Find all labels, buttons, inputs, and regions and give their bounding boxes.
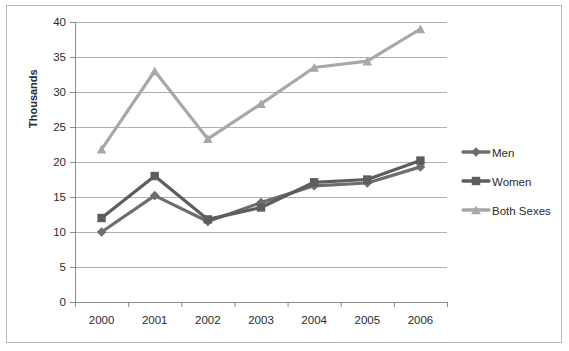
data-point-marker xyxy=(257,203,265,211)
y-axis-ticks-group: 0510152025303540 xyxy=(53,16,75,308)
data-series-layer xyxy=(97,24,425,236)
x-tick-label: 2006 xyxy=(408,314,434,326)
chart-legend: MenWomenBoth Sexes xyxy=(463,147,551,217)
y-axis-title: Thousands xyxy=(27,69,39,128)
data-point-marker xyxy=(310,178,318,186)
data-point-marker xyxy=(416,156,424,164)
chart-container: Thousands 0510152025303540 2000200120022… xyxy=(0,0,569,351)
y-tick-label: 5 xyxy=(60,261,66,273)
x-axis-ticks-group: 2000200120022003200420052006 xyxy=(76,302,448,326)
data-point-marker xyxy=(416,24,426,33)
y-tick-label: 15 xyxy=(53,191,66,203)
y-tick-label: 35 xyxy=(53,51,66,63)
legend-swatch-marker xyxy=(472,177,480,185)
y-tick-label: 0 xyxy=(60,296,66,308)
data-point-marker xyxy=(97,214,105,222)
y-tick-label: 20 xyxy=(53,156,66,168)
legend-swatch-marker xyxy=(471,147,481,157)
legend-label: Men xyxy=(492,147,514,159)
x-tick-label: 2000 xyxy=(89,314,115,326)
x-tick-label: 2002 xyxy=(195,314,221,326)
x-tick-label: 2005 xyxy=(354,314,380,326)
series-both-sexes xyxy=(97,24,425,153)
y-tick-label: 10 xyxy=(53,226,66,238)
y-tick-label: 30 xyxy=(53,86,66,98)
legend-item-women[interactable]: Women xyxy=(463,176,531,188)
series-line xyxy=(102,29,421,149)
legend-item-both-sexes[interactable]: Both Sexes xyxy=(463,205,551,217)
y-tick-label: 25 xyxy=(53,121,66,133)
gridlines-group xyxy=(75,23,447,268)
y-tick-label: 40 xyxy=(53,16,66,28)
data-point-marker xyxy=(363,175,371,183)
data-point-marker xyxy=(151,172,159,180)
x-tick-label: 2001 xyxy=(142,314,168,326)
legend-label: Both Sexes xyxy=(492,205,551,217)
legend-item-men[interactable]: Men xyxy=(463,147,514,159)
legend-label: Women xyxy=(492,176,531,188)
data-point-marker xyxy=(150,66,160,75)
data-point-marker xyxy=(204,215,212,223)
line-chart-plot: Thousands 0510152025303540 2000200120022… xyxy=(0,0,569,351)
series-men xyxy=(97,162,425,237)
x-tick-label: 2004 xyxy=(301,314,327,326)
x-tick-label: 2003 xyxy=(248,314,274,326)
series-women xyxy=(97,156,424,223)
